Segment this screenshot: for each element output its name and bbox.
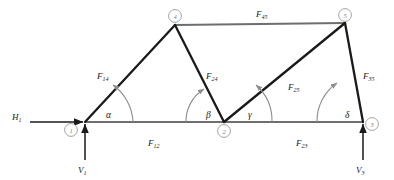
angle-arc-delta (317, 83, 337, 122)
member-label-F12: F12 (147, 138, 160, 149)
member-label-F25: F25 (287, 82, 300, 93)
angle-label-alpha: α (106, 110, 112, 120)
force-label-V3: V3 (356, 165, 365, 176)
member-F24 (175, 25, 224, 122)
node-1-label: 1 (69, 127, 72, 134)
member-label-F14: F14 (96, 71, 109, 82)
member-label-F45: F45 (255, 9, 268, 20)
member-label-F24: F24 (205, 71, 218, 82)
member-F25 (224, 23, 345, 122)
member-F45 (175, 23, 345, 25)
member-label-F35: F35 (362, 71, 375, 82)
angle-arc-beta (186, 89, 204, 122)
angle-label-beta: β (205, 110, 211, 120)
angle-label-delta: δ (345, 110, 350, 120)
angle-label-gamma: γ (248, 110, 252, 120)
truss-diagram: 1 2 3 4 5 F12 F23 F45 F14 F24 F25 F35 α … (0, 0, 394, 180)
angle-arc-alpha (113, 85, 133, 122)
force-label-V1: V1 (78, 165, 87, 176)
force-label-H1: H1 (11, 112, 22, 123)
member-F35 (345, 23, 363, 122)
member-label-F23: F23 (295, 138, 308, 149)
